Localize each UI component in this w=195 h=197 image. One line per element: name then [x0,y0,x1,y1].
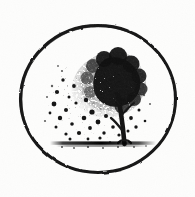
ink-drawing-svg [0,0,195,197]
paper-grain-overlay [0,0,195,197]
tree-emblem-illustration: Stippled deciduous tree inside a hand-dr… [0,0,195,197]
